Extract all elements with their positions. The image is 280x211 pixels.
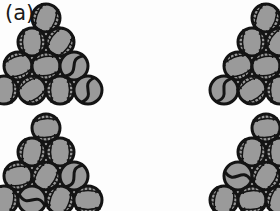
ball-baseball [264, 184, 280, 211]
figure-canvas: (a) [0, 0, 280, 211]
ball-baseball [72, 184, 104, 211]
ball-baseball [264, 74, 280, 106]
ball-curve [72, 74, 104, 106]
